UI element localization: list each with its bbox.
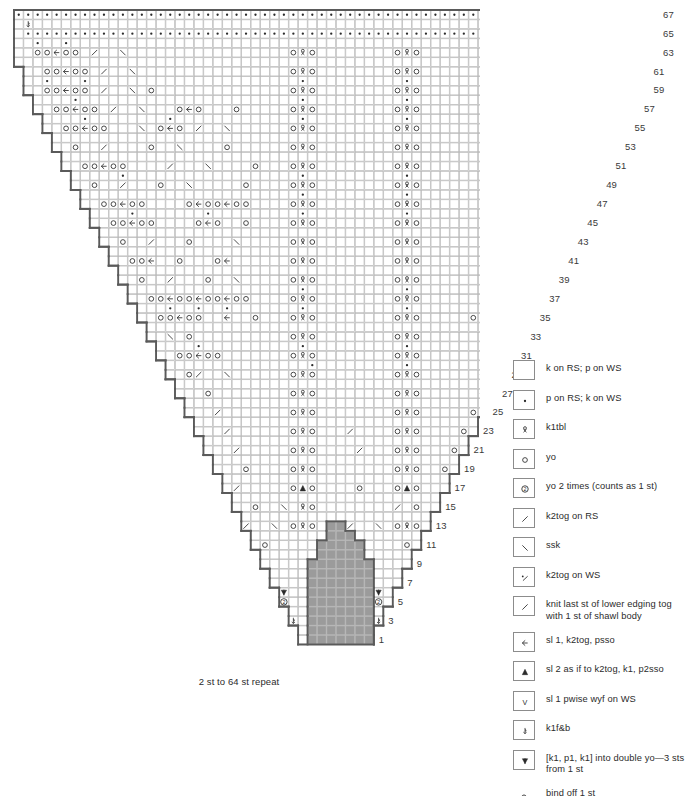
legend-swatch-k1tbl [513,419,535,439]
row-number: 25 [493,406,504,417]
legend-swatch-yo2: 2 [513,478,535,498]
legend-swatch-kpk [513,750,535,770]
legend-item-kpk: [k1, p1, k1] into double yo—3 sts from 1… [513,750,691,776]
row-number: 57 [644,103,655,114]
sl1pwise-symbol: V [514,692,536,712]
row-number: 17 [455,482,466,493]
legend-swatch-sl1k2togpsso [513,632,535,652]
legend-label-sl2k1p2sso: sl 2 as if to k2tog, k1, p2sso [546,661,664,676]
legend-label-k2tog: k2tog on RS [546,508,598,523]
row-number: 51 [616,160,627,171]
row-number: 13 [436,520,447,531]
k2tog-symbol [514,509,536,529]
row-number: 21 [474,444,485,455]
k1fb-symbol [514,721,536,741]
row-number: 3 [388,615,393,626]
ssk-symbol [514,538,536,558]
k1tbl-symbol [514,420,536,440]
row-number: 47 [597,198,608,209]
legend-item-k: k on RS; p on WS [513,360,691,380]
svg-text:V: V [523,698,528,707]
legend-swatch-sl2k1p2sso [513,661,535,681]
legend-item-k1tbl: k1tbl [513,419,691,439]
sl2k1p2sso-symbol [514,662,536,682]
row-number: 41 [568,255,579,266]
row-number: 33 [530,331,541,342]
row-number: 61 [653,66,664,77]
chart-caption: 2 st to 64 st repeat [0,676,478,687]
legend-swatch-k2tog [513,508,535,528]
legend-item-ssk: ssk [513,537,691,557]
legend-label-ssk: ssk [546,537,560,552]
row-number: 23 [483,425,494,436]
legend-item-sl1pwise: Vsl 1 pwise wyf on WS [513,691,691,711]
p-symbol [514,391,536,411]
row-number: 19 [464,463,475,474]
kpk-symbol [514,751,536,771]
legend-label-knitlast: knit last st of lower edging tog with 1 … [546,596,691,622]
knitlast-symbol [514,597,536,617]
row-number: 65 [663,28,674,39]
row-number: 63 [663,47,674,58]
row-number: 27 [502,388,513,399]
legend-item-sl1k2togpsso: sl 1, k2tog, psso [513,632,691,652]
legend-swatch-k2togws [513,567,535,587]
legend-item-knitlast: knit last st of lower edging tog with 1 … [513,596,691,622]
legend-item-sl2k1p2sso: sl 2 as if to k2tog, k1, p2sso [513,661,691,681]
row-number: 67 [663,9,674,20]
row-number: 43 [578,236,589,247]
legend-swatch-p [513,390,535,410]
legend-label-k1tbl: k1tbl [546,419,566,434]
row-number: 35 [540,312,551,323]
row-number: 49 [606,179,617,190]
yo-symbol [514,450,536,470]
legend-item-k2tog: k2tog on RS [513,508,691,528]
legend-label-yo2: yo 2 times (counts as 1 st) [546,478,657,493]
legend-label-k2togws: k2tog on WS [546,567,600,582]
stitch-legend: k on RS; p on WSp on RS; k on WSk1tblyo2… [513,360,691,796]
legend-label-sl1pwise: sl 1 pwise wyf on WS [546,691,636,706]
legend-item-k2togws: k2tog on WS [513,567,691,587]
k2togws-symbol [514,568,536,588]
legend-label-bindoff: bind off 1 st [546,785,595,796]
yo2-symbol: 2 [514,479,536,499]
legend-item-yo2: 2yo 2 times (counts as 1 st) [513,478,691,498]
row-number: 45 [587,217,598,228]
legend-item-yo: yo [513,449,691,469]
row-number: 53 [625,141,636,152]
svg-text:2: 2 [524,486,527,492]
row-number: 11 [426,539,436,550]
legend-swatch-ssk [513,537,535,557]
row-number: 55 [635,122,646,133]
legend-label-yo: yo [546,449,556,464]
legend-item-p: p on RS; k on WS [513,390,691,410]
legend-label-k1fb: k1f&b [546,720,570,735]
legend-swatch-k [513,360,535,380]
row-number: 59 [653,84,664,95]
row-number: 9 [417,558,422,569]
legend-item-k1fb: k1f&b [513,720,691,740]
legend-swatch-yo [513,449,535,469]
legend-label-kpk: [k1, p1, k1] into double yo—3 sts from 1… [546,750,691,776]
row-number: 7 [407,577,412,588]
row-number: 39 [559,274,570,285]
bindoff-symbol [513,785,535,796]
legend-label-k: k on RS; p on WS [546,360,622,375]
legend-swatch-bindoff [513,785,535,796]
row-number: 15 [445,501,456,512]
row-number: 31 [521,350,532,361]
legend-swatch-knitlast [513,596,535,616]
sl1k2togpsso-symbol [514,633,536,653]
row-number: 37 [549,293,560,304]
legend-swatch-k1fb [513,720,535,740]
row-number: 5 [398,596,403,607]
legend-label-p: p on RS; k on WS [546,390,622,405]
legend-swatch-sl1pwise: V [513,691,535,711]
legend-item-bindoff: bind off 1 st [513,785,691,796]
legend-label-sl1k2togpsso: sl 1, k2tog, psso [546,632,615,647]
row-number: 1 [379,634,384,645]
